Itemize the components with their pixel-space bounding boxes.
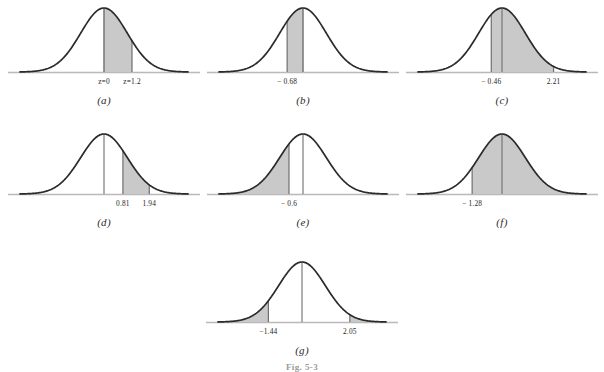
normal-curve-c: − 0.462.21 bbox=[404, 2, 600, 94]
panel-c: − 0.462.21 (c) bbox=[404, 2, 600, 94]
normal-curve-a: z=0z=1.2 bbox=[6, 2, 202, 94]
panel-label-g: (g) bbox=[204, 344, 400, 356]
panel-b: − 0.68 (b) bbox=[205, 2, 401, 94]
normal-curve-d: 0.811.94 bbox=[6, 128, 202, 216]
tick-label-d-1: 1.94 bbox=[142, 199, 156, 208]
tick-label-f-0: − 1.28 bbox=[462, 199, 482, 208]
tick-label-a-1: z=1.2 bbox=[123, 77, 141, 86]
normal-curve-g: −1.442.05 bbox=[204, 256, 400, 344]
tick-label-g-0: −1.44 bbox=[259, 327, 277, 336]
panel-g: −1.442.05 (g) bbox=[204, 256, 400, 344]
tick-label-g-1: 2.05 bbox=[343, 327, 357, 336]
panel-label-d: (d) bbox=[6, 216, 202, 228]
tick-label-c-1: 2.21 bbox=[547, 77, 561, 86]
tick-label-d-0: 0.81 bbox=[116, 199, 130, 208]
panel-label-c: (c) bbox=[404, 94, 600, 106]
tick-label-e-0: − 0.6 bbox=[281, 199, 297, 208]
panel-label-b: (b) bbox=[205, 94, 401, 106]
tick-label-a-0: z=0 bbox=[98, 77, 110, 86]
panel-f: − 1.28 (f) bbox=[404, 128, 600, 216]
panel-label-e: (e) bbox=[205, 216, 401, 228]
panel-a: z=0z=1.2 (a) bbox=[6, 2, 202, 94]
normal-curve-f: − 1.28 bbox=[404, 128, 600, 216]
figure-caption: Fig. 5-3 bbox=[0, 362, 604, 372]
panel-d: 0.811.94 (d) bbox=[6, 128, 202, 216]
tick-label-c-0: − 0.46 bbox=[481, 77, 501, 86]
panel-label-a: (a) bbox=[6, 94, 202, 106]
panel-e: − 0.6 (e) bbox=[205, 128, 401, 216]
tick-label-b-0: − 0.68 bbox=[277, 77, 297, 86]
normal-curve-e: − 0.6 bbox=[205, 128, 401, 216]
normal-curve-b: − 0.68 bbox=[205, 2, 401, 94]
panel-label-f: (f) bbox=[404, 216, 600, 228]
